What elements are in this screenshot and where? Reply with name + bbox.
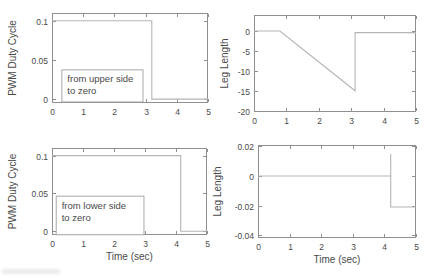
plot-box — [259, 146, 416, 238]
x-tick-label: 1 — [288, 242, 293, 252]
y-tick-label: 0.05 — [31, 56, 48, 66]
x-tick-label: 4 — [382, 116, 387, 126]
plot-pwm-upper: 01234500.050.1from upper sideto zeroPWM … — [52, 13, 208, 103]
y-tick-label: -10 — [238, 67, 251, 77]
x-tick-label: 0 — [256, 242, 261, 252]
plot-leg-length-lower: 0123450.020-0.02-0.04Leg LengthTime (sec… — [258, 145, 416, 238]
x-tick-label: 5 — [206, 107, 211, 117]
y-tick-label: 0.1 — [36, 152, 48, 162]
chart-svg: 01234500.050.1from upper sideto zeroPWM … — [52, 13, 208, 103]
y-axis-label: Leg Length — [212, 166, 223, 216]
plot-leg-length-upper: 0123450-5-10-15-20Leg Length — [254, 15, 416, 112]
x-tick-label: 2 — [317, 116, 322, 126]
y-tick-label: 0.05 — [31, 189, 48, 199]
y-tick-label: -0.04 — [235, 231, 255, 241]
x-tick-label: 3 — [144, 107, 149, 117]
y-tick-label: 0 — [245, 27, 250, 37]
x-axis-label: Time (sec) — [106, 251, 153, 262]
annotation-text: from lower side — [62, 200, 126, 211]
y-tick-label: 0.1 — [36, 17, 48, 27]
x-tick-label: 1 — [284, 116, 289, 126]
x-tick-label: 3 — [349, 116, 354, 126]
x-tick-label: 1 — [81, 239, 86, 249]
y-axis-label: Leg Length — [219, 38, 230, 88]
x-tick-label: 2 — [112, 107, 117, 117]
scan-artifact — [2, 269, 60, 274]
y-tick-label: 0 — [43, 227, 48, 237]
y-tick-label: -15 — [238, 87, 251, 97]
plot-pwm-lower: 01234500.050.1from lower sideto zeroPWM … — [52, 148, 207, 235]
plot-box — [255, 16, 416, 112]
x-tick-label: 0 — [50, 107, 55, 117]
y-tick-label: -0.02 — [235, 202, 255, 212]
data-line-leg-length-upper — [254, 31, 416, 91]
x-tick-label: 5 — [205, 239, 210, 249]
y-tick-label: -20 — [238, 107, 251, 117]
chart-svg: 0123450-5-10-15-20Leg Length — [254, 15, 416, 112]
y-tick-label: -5 — [242, 47, 250, 57]
data-line-leg-length-lower — [258, 154, 416, 207]
x-tick-label: 5 — [414, 116, 419, 126]
x-tick-label: 3 — [351, 242, 356, 252]
x-tick-label: 3 — [143, 239, 148, 249]
x-tick-label: 4 — [175, 107, 180, 117]
x-tick-label: 4 — [174, 239, 179, 249]
y-tick-label: 0.02 — [237, 142, 254, 152]
x-tick-label: 2 — [319, 242, 324, 252]
x-tick-label: 4 — [382, 242, 387, 252]
y-tick-label: 0 — [43, 95, 48, 105]
chart-svg: 01234500.050.1from lower sideto zeroPWM … — [52, 148, 207, 235]
x-tick-label: 1 — [81, 107, 86, 117]
y-axis-label: PWM Duty Cycle — [7, 153, 18, 229]
annotation-text: to zero — [67, 85, 96, 96]
annotation-text: from upper side — [67, 73, 133, 84]
x-tick-label: 0 — [50, 239, 55, 249]
x-axis-label: Time (sec) — [314, 254, 361, 265]
annotation-text: to zero — [62, 212, 91, 223]
figure-canvas: 01234500.050.1from upper sideto zeroPWM … — [0, 0, 433, 278]
chart-svg: 0123450.020-0.02-0.04Leg LengthTime (sec… — [258, 145, 416, 238]
x-tick-label: 0 — [252, 116, 257, 126]
y-tick-label: 0 — [249, 172, 254, 182]
y-axis-label: PWM Duty Cycle — [7, 20, 18, 96]
x-tick-label: 5 — [414, 242, 419, 252]
x-tick-label: 2 — [112, 239, 117, 249]
